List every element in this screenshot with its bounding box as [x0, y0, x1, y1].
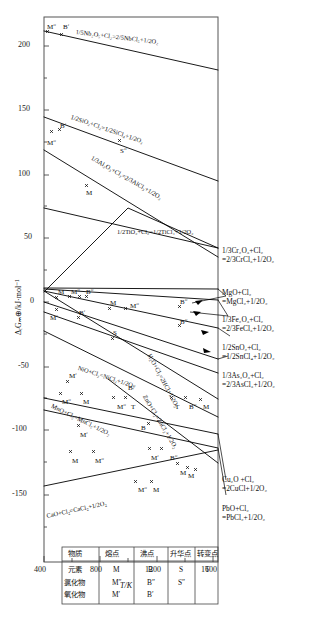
- phase-point-label: Mʺ: [47, 24, 56, 31]
- legend-header-melting: 熔点: [105, 550, 119, 557]
- right-label-as-line2: =2/3AsCl₃+1/2O₂: [222, 381, 275, 388]
- right-label-as: 1/3As₂O₃+Cl₂ =2/3AsCl₃+1/2O₂: [222, 372, 275, 389]
- phase-point-label: M: [83, 399, 89, 406]
- legend-row-element-trans: T: [205, 566, 210, 573]
- phase-point-label: Bʺ: [86, 289, 93, 296]
- phase-point-label: Bʺ: [189, 404, 196, 411]
- axis-ticks: [44, 46, 213, 562]
- phase-point-label: B: [141, 425, 146, 432]
- right-label-sn-line1: 1/2SnO₂+Cl₂: [222, 344, 275, 351]
- right-label-cu-line1: Cu₂O +Cl₂: [222, 476, 267, 483]
- phase-point-label: M: [180, 470, 186, 477]
- equation-label-ti-text: 1/2TiO₂+Cl₂=1/2TiCl₄+1/2O₂: [117, 228, 193, 235]
- phase-point-label: Mʺ: [71, 289, 80, 296]
- legend-header-boiling: 沸点: [140, 550, 154, 557]
- legend-row-element-melting: M: [113, 566, 120, 573]
- right-label-cr: 1/3Cr₂O₃+Cl₂ =2/3CrCl₃+1/2O₂: [222, 247, 274, 264]
- phase-point-label: Mʹ: [69, 373, 77, 380]
- phase-point-label: M: [203, 404, 209, 411]
- y-tick-100: 100: [18, 170, 30, 178]
- legend-header-sublimation: 升华点: [170, 550, 191, 557]
- phase-point-label: Mʺ: [138, 487, 147, 494]
- legend-row-chloride-melting: Mʺ: [112, 579, 121, 586]
- right-label-fe-line1: 1/3Fe₂O₃+Cl₂: [222, 316, 274, 323]
- right-label-mg-line2: =MgCl₂+1/2O₂: [222, 298, 268, 305]
- phase-point-label: Bʹ: [79, 310, 85, 317]
- line-si: [44, 117, 218, 181]
- x-tick-400: 400: [34, 566, 46, 574]
- right-label-sn: 1/2SnO₂+Cl₂ =1/2SnCl₄+1/2O₂: [222, 344, 275, 361]
- phase-point-label: Bʹ: [63, 24, 69, 31]
- right-label-cu: Cu₂O +Cl₂ =2CuCl+1/2O₂: [222, 476, 267, 493]
- x-tick-800: 800: [90, 566, 102, 574]
- right-label-as-line1: 1/3As₂O₃+Cl₂: [222, 372, 275, 379]
- right-label-fe: 1/3Fe₂O₃+Cl₂ =2/3FeCl₃+1/2O₂: [222, 316, 274, 333]
- phase-point-label: M: [110, 300, 116, 307]
- legend-header-substance: 物质: [68, 550, 82, 557]
- line-ti: [44, 208, 218, 292]
- y-tick-m100: -100: [12, 425, 27, 433]
- phase-point-label: Mʺ: [47, 140, 56, 147]
- y-tick-200: 200: [18, 41, 30, 49]
- phase-point-label: Mʹ: [50, 315, 58, 322]
- phase-point-label: Mʹ: [151, 455, 159, 462]
- phase-point-label: M: [58, 289, 64, 296]
- leader-arrowheads: [193, 300, 211, 353]
- right-label-fe-line2: =2/3FeCl₃+1/2O₂: [222, 325, 274, 332]
- chart-figure: 200 150 100 50 0 -50 -100 -150 400 800 1…: [0, 0, 313, 641]
- y-tick-0: 0: [30, 297, 34, 305]
- right-label-pb-line2: =PbCl₂+1/2O₂: [222, 514, 265, 521]
- phase-point-label: M: [72, 458, 78, 465]
- line-al: [44, 150, 218, 257]
- legend-row-chloride-subl: Sʺ: [178, 579, 185, 586]
- phase-point-label: Bʺ: [180, 299, 187, 306]
- line-ni: [44, 312, 218, 373]
- y-tick-m150: -150: [12, 490, 27, 498]
- legend-row-element-boiling: B: [148, 566, 153, 573]
- right-label-cr-line2: =2/3CrCl₃+1/2O₂: [222, 256, 274, 263]
- phase-point-label: Mʺ: [117, 404, 126, 411]
- phase-point-label: Bʺ: [128, 385, 135, 392]
- phase-point-label: M: [153, 487, 159, 494]
- y-axis-label: ΔᵣGₘ⊕/kJ·mol⁻¹: [14, 279, 23, 335]
- phase-point-label: T: [131, 404, 135, 411]
- legend-row-chloride-substance: 氯化物: [64, 579, 85, 586]
- legend-row-oxide-substance: 氧化物: [64, 591, 85, 598]
- phase-point-label: Mʺ: [130, 303, 139, 310]
- phase-point-label: Bʺ: [180, 319, 187, 326]
- right-label-pb-line1: PbO+Cl₂: [222, 505, 265, 512]
- phase-point-label: Bʺ: [170, 455, 177, 462]
- x-axis-label: T/K: [120, 582, 132, 590]
- right-label-cu-line2: =2CuCl+1/2O₂: [222, 485, 267, 492]
- phase-point-label: T: [175, 404, 179, 411]
- right-label-pb: PbO+Cl₂ =PbCl₂+1/2O₂: [222, 505, 265, 522]
- legend-row-oxide-melting: Mʹ: [112, 591, 120, 598]
- right-label-cr-line1: 1/3Cr₂O₃+Cl₂: [222, 247, 274, 254]
- phase-point-label: Sʺ: [120, 148, 126, 155]
- phase-point-label: S: [113, 330, 117, 337]
- phase-point-label: Mʺ: [95, 458, 104, 465]
- legend-header-transition: 转变点: [197, 550, 218, 557]
- legend-row-element-substance: 元素: [68, 566, 82, 573]
- right-label-mg-line1: MgO+Cl₂: [222, 289, 268, 296]
- legend-row-oxide-boiling: Bʹ: [147, 591, 154, 598]
- line-as: [44, 302, 218, 359]
- phase-point-label: Bʹ: [60, 123, 66, 130]
- phase-point-label: M: [86, 190, 92, 197]
- y-tick-50: 50: [24, 233, 32, 241]
- right-label-sn-line2: =1/2SnCl₄+1/2O₂: [222, 353, 275, 360]
- y-tick-m50: -50: [18, 362, 29, 370]
- right-label-mg: MgO+Cl₂ =MgCl₂+1/2O₂: [222, 289, 268, 306]
- line-ca: [44, 450, 218, 486]
- equation-label-ti: 1/2TiO₂+Cl₂=1/2TiCl₄+1/2O₂: [117, 228, 193, 236]
- legend-row-chloride-boiling: Bʺ: [147, 579, 155, 586]
- y-tick-150: 150: [18, 105, 30, 113]
- phase-point-label: Mʹ: [80, 432, 88, 439]
- phase-point-label: M: [188, 473, 194, 480]
- phase-point-label: Mʺ: [62, 399, 71, 406]
- legend-row-element-subl: S: [179, 566, 183, 573]
